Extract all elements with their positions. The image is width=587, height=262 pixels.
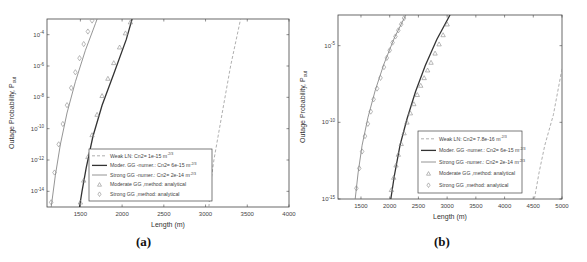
y-tick-label: 10-6 <box>33 62 44 70</box>
legend-label: Weak LN: Cn2= 1e-15 m-2/3 <box>110 152 173 158</box>
triangle-marker <box>100 94 104 98</box>
y-tick-label: 10-5 <box>324 41 335 49</box>
x-axis-title: Length (m) <box>151 221 185 229</box>
triangle-marker <box>433 51 437 55</box>
y-tick-label: 10-4 <box>33 30 44 38</box>
legend-label: Moderate GG ,method: analytical <box>439 170 515 176</box>
y-axis-title: Outage Probability, Pout <box>299 70 308 143</box>
chart-b: 15002000250030003500400045005000Length (… <box>293 0 587 230</box>
legend-entry: Moderate GG ,method: analytical <box>98 181 187 187</box>
legend-label: Moder. GG -numer.: Cn2= 6e-15 m-2/3 <box>439 147 526 153</box>
legend-label: Moder. GG -numer.: Cn2= 6e-15 m-2/3 <box>110 162 197 168</box>
y-tick-label: 10-10 <box>31 124 45 132</box>
x-tick-label: 3500 <box>241 211 255 217</box>
x-axis-title: Length (m) <box>433 213 467 221</box>
diamond-marker <box>82 41 86 46</box>
legend-entry: Moderate GG ,method: analytical <box>427 170 516 176</box>
y-tick-label: 10-10 <box>322 118 336 126</box>
series-line-dashed <box>209 19 241 207</box>
legend-label: Strong GG ,method: analytical <box>110 191 180 197</box>
x-tick-label: 1500 <box>74 211 88 217</box>
x-tick-label: 2500 <box>412 203 426 209</box>
y-axis-title: Outage Probability, Pout <box>8 76 17 149</box>
x-tick-label: 5000 <box>555 203 569 209</box>
x-tick-label: 3000 <box>199 211 213 217</box>
triangle-marker <box>117 45 121 49</box>
triangle-marker <box>123 31 127 35</box>
legend-label: Weak LN: Cn2= 7.8e-16 m-2/3 <box>439 135 507 141</box>
diamond-marker <box>86 29 90 34</box>
legend-entry: Strong GG ,method: analytical <box>427 182 509 188</box>
diamond-marker <box>69 85 73 90</box>
triangle-marker <box>422 76 426 80</box>
y-tick-label: 10-14 <box>31 187 45 195</box>
x-tick-label: 2000 <box>383 203 397 209</box>
caption-a: (a) <box>136 234 151 250</box>
x-tick-label: 4000 <box>498 203 512 209</box>
diamond-marker <box>78 56 82 61</box>
legend-entry: Strong GG ,method: analytical <box>98 191 180 197</box>
legend-label: Strong GG -numer.: Cn2= 2e-14 m-2/3 <box>439 159 525 165</box>
triangle-marker <box>419 83 423 87</box>
legend: Weak LN: Cn2= 1e-15 m-2/3Moder. GG -nume… <box>89 149 212 201</box>
triangle-marker <box>399 142 403 146</box>
triangle-marker <box>437 42 441 46</box>
x-tick-label: 2000 <box>115 211 129 217</box>
chart-panel-a: 150020002500300035004000Length (m)10-141… <box>0 0 293 262</box>
x-tick-label: 2500 <box>157 211 171 217</box>
chart-a: 150020002500300035004000Length (m)10-141… <box>0 0 293 230</box>
x-tick-label: 3000 <box>440 203 454 209</box>
y-tick-label: 10-15 <box>322 195 336 203</box>
triangle-marker <box>106 76 110 80</box>
x-tick-label: 1500 <box>354 203 368 209</box>
triangle-marker <box>441 33 445 37</box>
triangle-marker <box>405 120 409 124</box>
diamond-marker <box>74 70 78 75</box>
series-line-solid-thin <box>355 15 406 199</box>
x-tick-label: 4500 <box>527 203 541 209</box>
triangle-marker <box>402 131 406 135</box>
series-line-dashed <box>534 69 562 199</box>
legend-label: Strong GG -numer.: Cn2= 2e-14 m-2/3 <box>110 172 196 178</box>
triangle-marker <box>425 68 429 72</box>
caption-b: (b) <box>434 234 450 250</box>
legend-label: Strong GG ,method: analytical <box>439 182 509 188</box>
legend: Weak LN: Cn2= 7.8e-16 m-2/3Moder. GG -nu… <box>418 131 526 193</box>
x-tick-label: 3500 <box>469 203 483 209</box>
triangle-marker <box>112 61 116 65</box>
legend-label: Moderate GG ,method: analytical <box>110 181 186 187</box>
triangle-marker <box>429 60 433 64</box>
chart-panel-b: 15002000250030003500400045005000Length (… <box>293 0 587 262</box>
y-tick-label: 10-12 <box>31 156 45 164</box>
triangle-marker <box>95 112 99 116</box>
y-tick-label: 10-8 <box>33 93 44 101</box>
